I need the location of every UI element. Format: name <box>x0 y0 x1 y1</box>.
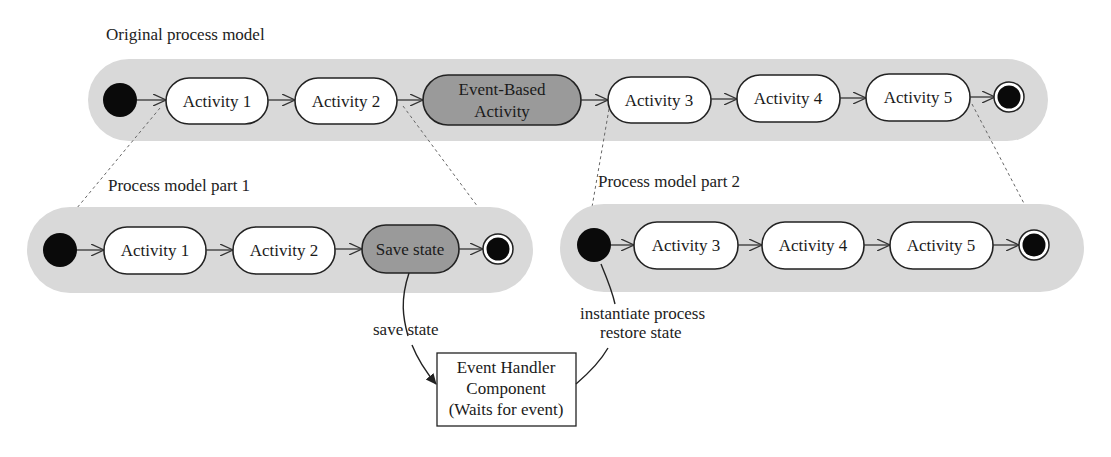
part2-final-node <box>1019 230 1049 260</box>
part2-activity-3[interactable]: Activity 3 <box>634 222 738 269</box>
original-activity-3[interactable]: Activity 3 <box>608 77 711 123</box>
part1-activity-1[interactable]: Activity 1 <box>104 227 206 274</box>
svg-text:Activity 4: Activity 4 <box>754 89 823 108</box>
svg-text:Event Handler: Event Handler <box>457 358 556 377</box>
part1-final-node <box>483 234 513 264</box>
save-state-arrow <box>412 345 436 384</box>
svg-text:Event-Based: Event-Based <box>459 80 546 99</box>
svg-text:Activity 3: Activity 3 <box>625 91 693 110</box>
original-activity-2[interactable]: Activity 2 <box>295 78 397 124</box>
svg-text:Save state: Save state <box>376 240 444 259</box>
restore-state-connector-bottom <box>576 348 608 384</box>
part2-initial-node <box>577 228 611 262</box>
original-model-title: Original process model <box>106 25 265 44</box>
restore-edge-label-line2: restore state <box>600 323 682 342</box>
svg-text:(Waits for event): (Waits for event) <box>449 400 564 419</box>
part1-initial-node <box>43 233 77 267</box>
part1-activity-2[interactable]: Activity 2 <box>233 227 335 274</box>
original-event-based-activity[interactable]: Event-Based Activity <box>423 75 581 125</box>
svg-text:Component: Component <box>466 379 546 398</box>
restore-edge-label-line1: instantiate process <box>580 304 705 323</box>
original-activity-1[interactable]: Activity 1 <box>166 78 268 124</box>
part2-activity-5[interactable]: Activity 5 <box>890 222 993 269</box>
part1-save-state-activity[interactable]: Save state <box>362 225 459 273</box>
svg-text:Activity 1: Activity 1 <box>121 241 189 260</box>
process-split-diagram: Original process model Activity 1 Activi… <box>0 0 1111 457</box>
svg-text:Activity: Activity <box>474 102 530 121</box>
svg-text:Activity 5: Activity 5 <box>907 236 975 255</box>
original-activity-4[interactable]: Activity 4 <box>737 75 840 122</box>
event-handler-component[interactable]: Event Handler Component (Waits for event… <box>437 353 576 426</box>
svg-text:Activity 4: Activity 4 <box>779 236 848 255</box>
part1-title: Process model part 1 <box>108 176 250 195</box>
original-initial-node <box>103 83 137 117</box>
svg-text:Activity 5: Activity 5 <box>884 88 952 107</box>
part2-activity-4[interactable]: Activity 4 <box>762 222 864 269</box>
svg-text:Activity 2: Activity 2 <box>250 241 318 260</box>
svg-text:Activity 2: Activity 2 <box>312 92 380 111</box>
part2-title: Process model part 2 <box>598 172 740 191</box>
svg-text:Activity 1: Activity 1 <box>183 92 251 111</box>
svg-text:Activity 3: Activity 3 <box>652 236 720 255</box>
save-state-edge-label: save state <box>373 320 439 339</box>
original-final-node <box>994 82 1024 112</box>
original-activity-5[interactable]: Activity 5 <box>866 74 970 121</box>
